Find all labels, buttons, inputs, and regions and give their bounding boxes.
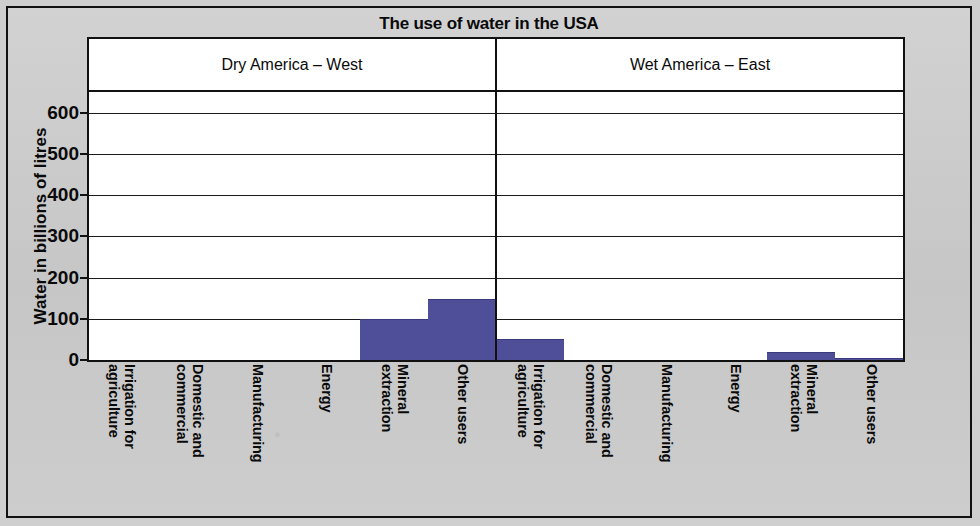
y-tick-mark [80, 112, 87, 114]
bar [835, 358, 903, 360]
category-label: Manufacturing [250, 364, 266, 463]
chart-page: The use of water in the USA Dry America … [0, 0, 980, 526]
plot-area [87, 90, 905, 362]
category-label-slot: Manufacturing [223, 364, 291, 520]
category-label: Domestic andcommercial [174, 364, 205, 458]
category-label-slot: Domestic andcommercial [155, 364, 223, 520]
category-axis-labels: Irrigation foragricultureDomestic andcom… [87, 364, 905, 520]
panel-divider [495, 92, 497, 360]
y-tick-label: 0 [68, 349, 79, 371]
panel-header-west: Dry America – West [89, 39, 495, 90]
bar-slot [89, 92, 157, 360]
category-label: Energy [318, 364, 334, 413]
y-tick-mark [80, 194, 87, 196]
bar [428, 299, 496, 360]
category-label-slot: Manufacturing [632, 364, 700, 520]
bar-slot [225, 92, 293, 360]
y-tick-mark [80, 235, 87, 237]
bar-slot [157, 92, 225, 360]
bar [496, 339, 564, 360]
bar-slot [564, 92, 632, 360]
category-label-slot: Mineralextraction [360, 364, 428, 520]
category-label-slot: Other users [837, 364, 905, 520]
category-label-slot: Other users [428, 364, 496, 520]
chart-title: The use of water in the USA [8, 14, 970, 34]
bar-slot [428, 92, 496, 360]
category-label: Irrigation foragriculture [105, 364, 136, 449]
bar-slot [632, 92, 700, 360]
y-tick-label: 300 [47, 225, 79, 247]
category-label-slot: Energy [701, 364, 769, 520]
y-tick-mark [80, 277, 87, 279]
y-tick-mark [80, 359, 87, 361]
y-axis: Water in billions of litres 010020030040… [8, 90, 87, 362]
bar-slot [835, 92, 903, 360]
y-tick-label: 100 [47, 308, 79, 330]
bar-slot [292, 92, 360, 360]
panel-header-east: Wet America – East [495, 39, 903, 90]
category-label: Other users [454, 364, 470, 444]
category-label-slot: Domestic andcommercial [564, 364, 632, 520]
category-label-slot: Irrigation foragriculture [87, 364, 155, 520]
category-label-slot: Energy [292, 364, 360, 520]
y-tick-label: 200 [47, 267, 79, 289]
category-label: Domestic andcommercial [583, 364, 614, 458]
category-label-slot: Mineralextraction [769, 364, 837, 520]
category-label-slot: Irrigation foragriculture [496, 364, 564, 520]
bar [360, 319, 428, 360]
bar-slot [767, 92, 835, 360]
category-label: Mineralextraction [787, 364, 818, 432]
page-frame: The use of water in the USA Dry America … [6, 6, 972, 518]
y-tick-mark [80, 318, 87, 320]
category-label: Mineralextraction [378, 364, 409, 432]
bar-slot [496, 92, 564, 360]
panel-header-row: Dry America – West Wet America – East [87, 37, 905, 90]
y-tick-label: 600 [47, 102, 79, 124]
bar [767, 352, 835, 360]
y-tick-label: 400 [47, 184, 79, 206]
category-label: Energy [727, 364, 743, 413]
y-tick-label: 500 [47, 143, 79, 165]
category-label: Manufacturing [659, 364, 675, 463]
bar-slot [699, 92, 767, 360]
category-label: Irrigation foragriculture [514, 364, 545, 449]
category-label: Other users [863, 364, 879, 444]
y-tick-mark [80, 153, 87, 155]
bar-slot [360, 92, 428, 360]
